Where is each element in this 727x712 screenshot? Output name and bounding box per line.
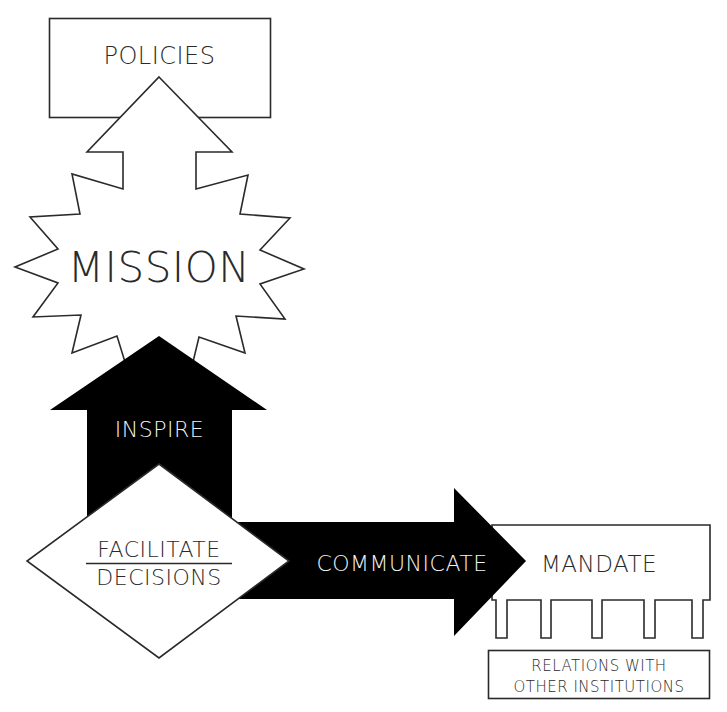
inspire-label: INSPIRE	[115, 417, 204, 442]
relations-label-line2: OTHER INSTITUTIONS	[514, 678, 685, 696]
communicate-label: COMMUNICATE	[316, 551, 487, 576]
policies-arrow-starburst-shape	[15, 77, 304, 362]
organization-diagram: POLICIES MISSION INSPIRE MANDATE COMMUNI…	[0, 0, 727, 712]
relations-box: RELATIONS WITH OTHER INSTITUTIONS	[489, 651, 710, 699]
mandate-comb-shape	[492, 525, 710, 638]
mission-starburst: MISSION	[15, 77, 304, 362]
mandate-box: MANDATE	[492, 525, 710, 638]
facilitate-label: FACILITATE	[97, 537, 220, 562]
facilitate-diamond: FACILITATE DECISIONS	[27, 464, 289, 658]
policies-label: POLICIES	[103, 42, 215, 70]
mandate-label: MANDATE	[541, 551, 657, 577]
mission-label: MISSION	[68, 243, 250, 292]
relations-label-line1: RELATIONS WITH	[531, 657, 666, 675]
decisions-label: DECISIONS	[96, 565, 221, 590]
